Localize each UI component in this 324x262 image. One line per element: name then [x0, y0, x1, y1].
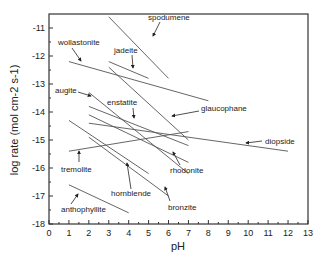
x-axis-label: pH	[171, 240, 185, 252]
line-jadeite	[109, 62, 149, 79]
y-tick-label: -15	[32, 135, 45, 145]
x-tick-label: 1	[66, 228, 71, 238]
line-annotations: spodumene wollastonite jadeite augite en…	[55, 13, 295, 214]
x-tick-label: 5	[146, 228, 151, 238]
x-tick-label: 13	[303, 228, 313, 238]
y-axis-label: log rate (mol cm-2 s-1)	[8, 65, 20, 176]
y-tick-label: -14	[32, 107, 45, 117]
label-wollastonite: wollastonite	[57, 38, 100, 47]
label-glaucophane: glaucophane	[201, 104, 247, 113]
x-tick-label: 0	[46, 228, 51, 238]
x-tick-label: 2	[86, 228, 91, 238]
x-tick-label: 9	[226, 228, 231, 238]
y-tick-label: -16	[32, 163, 45, 173]
y-tick-label: -17	[32, 191, 45, 201]
x-tick-label: 7	[186, 228, 191, 238]
x-tick-label: 3	[106, 228, 111, 238]
x-tick-label: 12	[283, 228, 293, 238]
y-tick-label: -11	[33, 23, 45, 33]
line-bronzite	[89, 137, 169, 196]
label-anthophyllite: anthophyllite	[61, 205, 106, 214]
label-augite: augite	[55, 86, 77, 95]
dissolution-rate-chart: 012345678910111213 -11-12-13-14-15-16-17…	[0, 0, 324, 262]
line-tremolite	[69, 132, 189, 152]
label-spodumene: spodumene	[148, 13, 190, 22]
label-jadeite: jadeite	[113, 46, 138, 55]
line-augite	[89, 92, 189, 173]
label-enstatite: enstatite	[107, 98, 138, 107]
x-tick-label: 6	[166, 228, 171, 238]
label-bronzite: bronzite	[168, 203, 197, 212]
label-rhodonite: rhodonite	[170, 166, 204, 175]
x-axis-ticks: 012345678910111213	[46, 220, 312, 238]
y-axis-ticks: -11-12-13-14-15-16-17-18	[32, 23, 53, 229]
label-hornblende: hornblende	[111, 189, 152, 198]
x-tick-label: 11	[263, 228, 272, 238]
x-tick-label: 4	[126, 228, 131, 238]
line-rhodonite	[89, 115, 189, 163]
x-tick-label: 10	[243, 228, 253, 238]
line-diopside	[89, 123, 288, 151]
label-diopside: diopside	[265, 137, 295, 146]
y-tick-label: -18	[32, 219, 45, 229]
x-tick-label: 8	[206, 228, 211, 238]
y-tick-label: -13	[32, 79, 45, 89]
label-tremolite: tremolite	[61, 165, 92, 174]
y-tick-label: -12	[32, 51, 45, 61]
